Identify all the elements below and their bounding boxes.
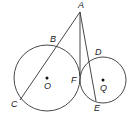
geometry-diagram: A B C D F E O Q — [0, 0, 127, 114]
label-f: F — [71, 75, 77, 85]
secant-ae — [80, 12, 96, 101]
label-e: E — [94, 103, 101, 113]
label-a: A — [77, 0, 84, 10]
center-dot-o — [46, 77, 49, 80]
label-q: Q — [100, 83, 107, 93]
label-o: O — [44, 81, 51, 91]
label-d: D — [95, 47, 102, 57]
center-dot-q — [102, 79, 105, 82]
label-c: C — [11, 99, 18, 109]
label-b: B — [50, 34, 56, 44]
